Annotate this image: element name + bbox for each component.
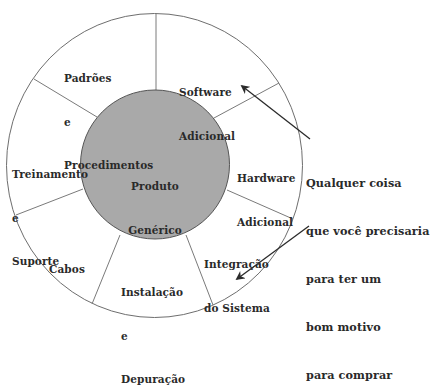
center-label-line-2: Genérico xyxy=(115,223,195,238)
label-line: Software xyxy=(179,85,235,100)
annotation-line: Qualquer coisa xyxy=(306,175,430,191)
label-line: Depuração xyxy=(121,372,185,387)
label-line: Treinamento xyxy=(12,167,88,182)
label-line: e xyxy=(12,211,88,226)
label-line: Hardware xyxy=(237,171,295,186)
annotation-line: bom motivo xyxy=(306,319,430,335)
annotation-line: para comprar xyxy=(306,367,430,383)
label-line: Padrões xyxy=(64,71,153,86)
annotation-line: para ter um xyxy=(306,271,430,287)
segment-label-treinamento: Treinamento e Suporte xyxy=(12,138,88,298)
label-line: Adicional xyxy=(179,129,235,144)
label-line: e xyxy=(64,115,153,130)
annotation-line: que você precisaria xyxy=(306,223,430,239)
annotation-text: Qualquer coisa que você precisaria para … xyxy=(306,143,430,389)
label-line: do Sistema xyxy=(204,301,270,316)
label-line: Adicional xyxy=(237,215,295,230)
segment-label-instalacao: Instalação e Depuração xyxy=(121,256,185,389)
label-line: Integração xyxy=(204,257,270,272)
label-line: Suporte xyxy=(12,254,88,269)
segment-label-integracao: Integração do Sistema xyxy=(204,228,270,344)
label-line: e xyxy=(121,329,185,344)
label-line: Instalação xyxy=(121,285,185,300)
segment-label-software: Software Adicional xyxy=(179,56,235,172)
